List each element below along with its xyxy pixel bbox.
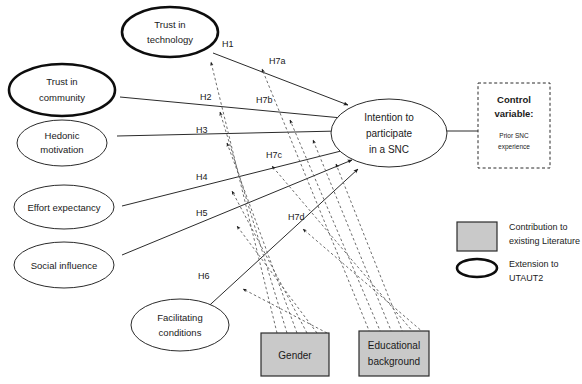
edge-h2	[120, 97, 342, 118]
legend-ellipse-line1: Extension to	[509, 259, 559, 269]
hypothesis-label-h6: H6	[198, 271, 210, 281]
trust-community-label-line1: Trust in	[46, 76, 77, 87]
legend-ellipse-swatch	[457, 259, 497, 277]
construct-facilitating-conditions[interactable]: Facilitating conditions	[131, 299, 229, 351]
trust-technology-label-line2: technology	[147, 34, 193, 45]
hypothesis-label-h2: H2	[200, 92, 212, 102]
control-variable-subtitle-line1: Prior SNC	[499, 132, 529, 139]
hypothesis-label-h7c: H7c	[266, 150, 283, 160]
education-label-line1: Educational	[368, 340, 420, 351]
edge-h5	[122, 160, 352, 255]
edge-h4	[122, 150, 345, 206]
legend-rect-swatch	[457, 222, 497, 251]
facilitating-conditions-label-line2: conditions	[159, 327, 202, 338]
main-hypothesis-edges	[117, 53, 358, 314]
trust-community-label-line2: community	[39, 92, 85, 103]
effort-expectancy-label: Effort expectancy	[27, 202, 100, 213]
hypothesis-label-h5: H5	[196, 208, 208, 218]
trust-technology-label-line1: Trust in	[154, 19, 185, 30]
hypothesis-label-h7a: H7a	[269, 56, 286, 66]
intention-label-line1: Intention to	[364, 112, 414, 123]
construct-social-influence[interactable]: Social influence	[14, 242, 114, 288]
hedonic-motivation-label-line1: Hedonic	[45, 130, 80, 141]
construct-trust-community[interactable]: Trust in community	[9, 64, 115, 116]
trust-community-ellipse[interactable]	[9, 64, 115, 116]
intention-label-line2: participate	[366, 128, 413, 139]
control-variable-title-line2: variable:	[494, 108, 533, 119]
legend: Contribution to existing Literature Exte…	[457, 222, 580, 283]
hedonic-motivation-label-line2: motivation	[40, 144, 83, 155]
legend-ellipse-line2: UTAUT2	[509, 273, 543, 283]
legend-rect-line2: existing Literature	[509, 236, 580, 246]
intention-label-line3: in a SNC	[369, 144, 409, 155]
construct-effort-expectancy[interactable]: Effort expectancy	[14, 185, 114, 229]
control-variable-subtitle-line2: experience	[498, 143, 530, 151]
gender-label: Gender	[278, 350, 312, 361]
edge-edu-h7c	[313, 140, 392, 333]
edge-gender-h7e	[237, 226, 317, 333]
edge-h6	[200, 169, 358, 314]
control-variable-title-line1: Control	[497, 94, 531, 105]
hypothesis-label-h4: H4	[196, 172, 208, 182]
moderator-education[interactable]: Educational background	[359, 331, 429, 376]
edge-gender-h7c	[227, 143, 297, 333]
hypothesis-label-h7b: H7b	[256, 95, 273, 105]
hypothesis-labels: H1 H2 H3 H4 H5 H6 H7a H7b H7c H7d	[196, 39, 305, 281]
legend-rect-line1: Contribution to	[509, 222, 568, 232]
edge-edu-h7d	[336, 164, 403, 333]
education-label-line2: background	[368, 356, 420, 367]
education-box[interactable]	[359, 331, 429, 376]
research-model-diagram: Trust in technology Trust in community H…	[0, 0, 582, 384]
construct-trust-technology[interactable]: Trust in technology	[122, 7, 218, 57]
facilitating-conditions-ellipse[interactable]	[131, 299, 229, 351]
hypothesis-label-h7d: H7d	[288, 212, 305, 222]
facilitating-conditions-label-line1: Facilitating	[157, 312, 202, 323]
control-variable-box[interactable]: Control variable: Prior SNC experience	[478, 83, 550, 168]
diagram-canvas: Trust in technology Trust in community H…	[0, 0, 582, 384]
construct-hedonic-motivation[interactable]: Hedonic motivation	[17, 120, 107, 166]
trust-technology-ellipse[interactable]	[122, 7, 218, 57]
outcome-intention-participate[interactable]: Intention to participate in a SNC	[331, 99, 447, 167]
edge-gender-h7b	[220, 112, 287, 333]
moderator-gender[interactable]: Gender	[261, 333, 329, 376]
hypothesis-label-h1: H1	[222, 39, 234, 49]
social-influence-label: Social influence	[31, 260, 98, 271]
hypothesis-label-h3: H3	[196, 125, 208, 135]
